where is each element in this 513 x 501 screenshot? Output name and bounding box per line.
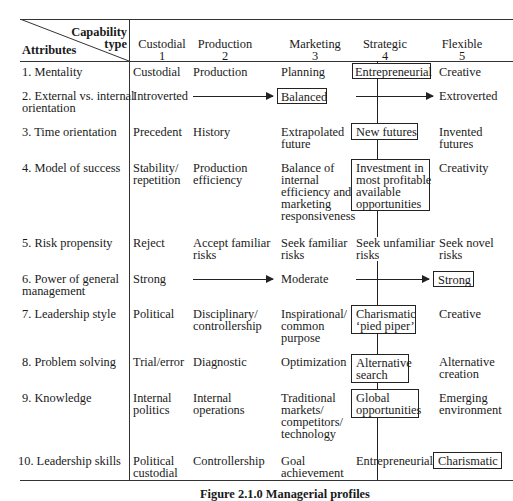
cell-r5-c3: Seek familiar risks	[281, 237, 347, 261]
cell-r4-c4: Investment in most profitable available …	[356, 162, 431, 210]
cell-r10-c1: Political custodial	[133, 455, 178, 479]
column-header-production: Production2	[190, 38, 260, 62]
corner-attributes-label: Attributes	[22, 44, 76, 56]
cell-r5-c5: Seek novel risks	[439, 237, 494, 261]
cell-r9-c5: Emerging environment	[439, 392, 502, 416]
cell-r6-c1: Strong	[133, 273, 166, 285]
cell-r10-c2: Controllership	[193, 455, 265, 467]
row-label-time-orientation: 3. Time orientation	[22, 126, 117, 138]
bottom-rule	[20, 480, 513, 481]
cell-r8-c1: Trial/error	[133, 356, 184, 368]
cell-r6-c5: Strong	[438, 274, 471, 286]
cell-r1-c5: Creative	[439, 66, 481, 78]
cell-r5-c4: Seek unfamiliar risks	[356, 237, 435, 261]
cell-r1-c2: Production	[193, 66, 247, 78]
row-label-leadership-style: 7. Leadership style	[22, 308, 116, 320]
cell-r3-c5: Invented futures	[439, 126, 482, 150]
row-label-leadership-skills: 10. Leadership skills	[18, 455, 121, 467]
cell-r7-c1: Political	[133, 308, 174, 320]
column-header-custodial: Custodial1	[131, 38, 193, 62]
cell-r7-c3: Inspirational/ common purpose	[281, 308, 347, 344]
cell-r9-c1: Internal politics	[133, 392, 172, 416]
cell-r3-c2: History	[193, 126, 230, 138]
cell-r2-c1: Introverted	[133, 90, 188, 102]
cell-r10-c3: Goal achievement	[281, 455, 344, 479]
cell-r10-c5: Charismatic	[438, 455, 498, 467]
row-label-orientation: 2. External vs. internal orientation	[22, 90, 135, 114]
cell-r3-c4: New futures	[356, 126, 417, 138]
cell-r3-c3: Extrapolated future	[281, 126, 344, 150]
row-label-power: 6. Power of general management	[22, 273, 119, 297]
figure-caption: Figure 2.1.0 Managerial profiles	[200, 488, 370, 500]
row-label-knowledge: 9. Knowledge	[22, 392, 92, 404]
cell-r4-c2: Production efficiency	[193, 162, 247, 186]
cell-r7-c2: Disciplinary/ controllership	[193, 308, 262, 332]
cell-r10-c4: Entrepreneurial	[356, 455, 433, 467]
cell-r4-c1: Stability/ repetition	[133, 162, 180, 186]
cell-r8-c3: Optimization	[281, 356, 346, 368]
cell-r5-c2: Accept familiar risks	[193, 237, 270, 261]
row-label-problem-solving: 8. Problem solving	[22, 356, 116, 368]
cell-r9-c2: Internal operations	[193, 392, 245, 416]
arrow-r6-to-moderate	[193, 279, 273, 280]
cell-r1-c3: Planning	[281, 66, 325, 78]
cell-r2-c3: Balanced	[281, 91, 327, 103]
row-label-model-of-success: 4. Model of success	[22, 162, 120, 174]
cell-r4-c3: Balance of internal efficiency and marke…	[281, 162, 355, 222]
cell-r7-c5: Creative	[439, 308, 481, 320]
cell-r4-c5: Creativity	[439, 162, 489, 174]
arrow-r6-to-strong	[356, 279, 429, 280]
cell-r3-c1: Precedent	[133, 126, 182, 138]
cell-r9-c4: Global opportunities	[356, 392, 421, 416]
cell-r7-c4: Charismatic ‘pied piper’	[356, 308, 416, 332]
cell-r8-c5: Alternative creation	[439, 356, 495, 380]
cell-r9-c3: Traditional markets/ competitors/ techno…	[281, 392, 343, 440]
cell-r5-c1: Reject	[133, 237, 165, 249]
cell-r6-c3: Moderate	[281, 273, 328, 285]
cell-r1-c4: Entrepreneurial	[355, 66, 432, 78]
cell-r1-c1: Custodial	[133, 66, 181, 78]
cell-r8-c4: Alternative search	[356, 357, 412, 381]
row-label-mentality: 1. Mentality	[22, 66, 83, 78]
column-header-marketing: Marketing3	[280, 38, 350, 62]
corner-type-label: type	[104, 38, 127, 50]
arrow-r2-to-balanced	[193, 96, 273, 97]
cell-r8-c2: Diagnostic	[193, 356, 247, 368]
column-header-flexible: Flexible5	[432, 38, 492, 62]
arrow-r2-to-extroverted	[356, 96, 433, 97]
cell-r2-c5: Extroverted	[439, 90, 498, 102]
column-header-strategic: Strategic4	[350, 38, 420, 62]
row-label-risk-propensity: 5. Risk propensity	[22, 237, 113, 249]
